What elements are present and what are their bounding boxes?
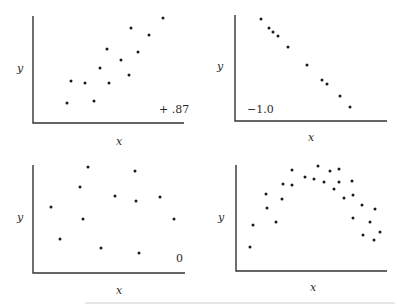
data-point [120,59,123,62]
data-point [304,176,307,179]
points-panel-4 [249,165,382,249]
data-point [277,35,280,38]
points-panel-2 [260,18,352,109]
y-axis-label: y [217,211,225,224]
data-point [317,165,320,168]
scatter-figure: y x + .87 y x −1.0 y x 0 y x [0,0,399,306]
axes-panel-4 [236,165,387,271]
data-point [374,208,377,211]
data-point [275,221,278,224]
data-point [84,82,87,85]
data-point [369,221,372,224]
data-point [249,246,252,249]
panel-curvilinear: y x [217,165,387,295]
data-point [287,46,290,49]
data-point [362,234,365,237]
data-point [135,200,138,203]
data-point [306,64,309,67]
correlation-annotation: 0 [176,252,183,265]
data-point [134,170,137,173]
data-point [352,194,355,197]
data-point [99,67,102,70]
data-point [66,102,69,105]
data-point [349,106,352,109]
data-point [352,217,355,220]
data-point [137,51,140,54]
data-point [159,196,162,199]
data-point [361,204,364,207]
data-point [272,31,275,34]
data-point [329,170,332,173]
x-axis-label: x [116,135,123,148]
data-point [291,169,294,172]
y-axis-label: y [16,62,24,75]
data-point [130,27,133,30]
data-point [282,183,285,186]
y-axis-label: y [16,211,24,224]
panel-negative-correlation: y x −1.0 [216,15,387,144]
x-axis-label: x [116,284,123,297]
y-axis-label: y [216,60,224,73]
data-point [173,218,176,221]
data-point [291,184,294,187]
data-point [138,252,141,255]
cropped-caption-remnant [85,302,395,304]
data-point [162,17,165,20]
data-point [313,178,316,181]
data-point [339,95,342,98]
panel-positive-correlation: y x + .87 [16,16,189,148]
data-point [100,247,103,250]
data-point [114,195,117,198]
panel-zero-correlation: y x 0 [16,165,185,297]
data-point [351,180,354,183]
data-point [373,239,376,242]
data-point [268,27,271,30]
x-axis-label: x [308,131,315,144]
data-point [108,82,111,85]
data-point [87,166,90,169]
correlation-annotation: + .87 [159,103,189,116]
data-point [93,100,96,103]
data-point [323,181,326,184]
data-point [338,168,341,171]
data-point [148,34,151,37]
data-point [79,186,82,189]
data-point [266,207,269,210]
data-point [379,231,382,234]
data-point [260,18,263,21]
data-point [265,193,268,196]
data-point [343,197,346,200]
data-point [326,83,329,86]
data-point [333,188,336,191]
data-point [281,198,284,201]
data-point [338,181,341,184]
data-point [252,224,255,227]
data-point [82,218,85,221]
axes-panel-3 [33,165,185,273]
correlation-annotation: −1.0 [247,103,274,116]
points-panel-1 [66,17,165,105]
data-point [321,79,324,82]
data-point [59,238,62,241]
data-point [70,80,73,83]
x-axis-label: x [310,281,317,294]
points-panel-3 [50,166,176,255]
data-point [50,206,53,209]
data-point [128,74,131,77]
data-point [106,48,109,51]
